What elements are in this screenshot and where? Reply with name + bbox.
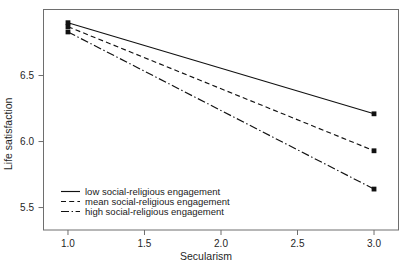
- x-tick-label-2-0: 2.0: [201, 238, 241, 249]
- series-line-high: [68, 32, 374, 189]
- y-axis-ticks: [39, 76, 44, 208]
- series-mean-social-religious-engagement: [66, 24, 377, 153]
- legend-keys: [61, 192, 80, 212]
- y-tick-label-5-5: 5.5: [6, 202, 34, 213]
- series-marker-high-start: [66, 30, 71, 35]
- series-low-social-religious-engagement: [66, 20, 377, 116]
- x-tick-label-3-0: 3.0: [354, 238, 394, 249]
- chart-figure: Life satisfaction 5.5 6.0 6.5 1.0 1.5 2.…: [0, 0, 412, 268]
- x-tick-label-1-5: 1.5: [124, 238, 164, 249]
- legend-label-high: high social-religious engagement: [85, 206, 224, 217]
- x-axis-label: Secularism: [0, 250, 412, 262]
- series-high-social-religious-engagement: [66, 30, 377, 192]
- y-tick-label-6-5: 6.5: [6, 70, 34, 81]
- series-line-low: [68, 23, 374, 114]
- x-tick-label-2-5: 2.5: [278, 238, 318, 249]
- x-axis-ticks: [68, 230, 374, 235]
- x-tick-label-1-0: 1.0: [48, 238, 88, 249]
- series-marker-mean-start: [66, 24, 71, 29]
- chart-plot-area: [0, 0, 412, 268]
- series-marker-low-end: [372, 111, 377, 116]
- series-marker-high-end: [372, 187, 377, 192]
- series-line-mean: [68, 27, 374, 151]
- y-axis-label: Life satisfaction: [2, 98, 14, 170]
- series-marker-mean-end: [372, 148, 377, 153]
- y-tick-label-6-0: 6.0: [6, 136, 34, 147]
